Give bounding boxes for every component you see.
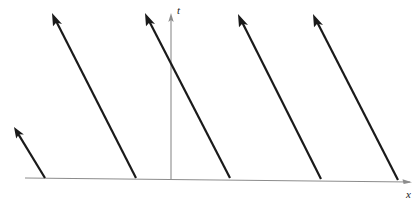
t-axis-group (168, 13, 173, 179)
worldline-2-shaft (55, 19, 136, 179)
worldline-3-shaft (148, 19, 230, 179)
worldline-5 (313, 14, 398, 180)
diagram-canvas: t x (0, 0, 420, 207)
worldline-3 (145, 13, 230, 178)
worldline-5-shaft (316, 20, 398, 181)
t-axis-label: t (177, 4, 181, 16)
worldlines-group (14, 13, 398, 180)
x-axis-line (25, 178, 410, 182)
x-axis-group (25, 178, 412, 184)
worldline-2 (52, 13, 136, 178)
worldline-4-shaft (241, 20, 321, 180)
worldline-1 (14, 127, 45, 178)
x-axis-arrowhead-icon (403, 179, 413, 184)
worldline-4 (238, 14, 321, 179)
x-axis-label: x (405, 188, 411, 200)
spacetime-diagram-figure: t x (0, 0, 420, 207)
worldline-1-shaft (17, 132, 45, 178)
